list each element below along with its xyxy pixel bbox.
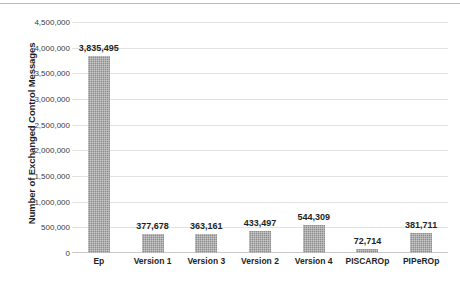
- x-axis-category-label: Ep: [93, 256, 104, 266]
- x-axis-category-label: PIPeROp: [403, 256, 439, 266]
- bar-group: 3,835,495: [72, 22, 126, 253]
- bar[interactable]: [410, 233, 432, 253]
- bar-chart: Number of Exchanged Control Messages 050…: [0, 0, 460, 286]
- bar-value-label: 72,714: [354, 236, 382, 246]
- x-axis-category-label: Version 4: [295, 256, 333, 266]
- bar-group: 433,497: [233, 22, 287, 253]
- bar[interactable]: [303, 225, 325, 253]
- bar-series: 3,835,495377,678363,161433,497544,30972,…: [72, 22, 448, 253]
- y-axis-tick-label: 3,500,000: [26, 69, 70, 78]
- x-axis-category-label: Version 3: [187, 256, 225, 266]
- bar-group: 363,161: [179, 22, 233, 253]
- bar[interactable]: [195, 234, 217, 253]
- bar-value-label: 363,161: [190, 221, 223, 231]
- x-axis-category-label: Version 2: [241, 256, 279, 266]
- bar-group: 381,711: [394, 22, 448, 253]
- x-axis-category-label: PISCAROp: [345, 256, 389, 266]
- y-axis-tick-label: 500,000: [26, 223, 70, 232]
- x-axis-category-label: Version 1: [134, 256, 172, 266]
- y-axis-tick-label: 3,000,000: [26, 95, 70, 104]
- y-axis-tick-label: 0: [26, 249, 70, 258]
- y-axis-tick-label: 2,500,000: [26, 120, 70, 129]
- x-axis-category-labels: EpVersion 1Version 3Version 2Version 4PI…: [72, 256, 448, 272]
- y-axis-tick-label: 1,500,000: [26, 172, 70, 181]
- y-axis-tick-label: 1,000,000: [26, 197, 70, 206]
- bar-value-label: 381,711: [405, 220, 437, 230]
- bar-group: 72,714: [341, 22, 395, 253]
- bar[interactable]: [356, 249, 378, 253]
- bar-group: 544,309: [287, 22, 341, 253]
- bar-value-label: 544,309: [297, 212, 330, 222]
- bar-value-label: 433,497: [244, 218, 277, 228]
- y-axis-tick-label: 4,500,000: [26, 18, 70, 27]
- bar-group: 377,678: [126, 22, 180, 253]
- bar[interactable]: [88, 56, 110, 253]
- bar-value-label: 377,678: [136, 221, 169, 231]
- y-axis-tick-labels: 0500,0001,000,0001,500,0002,000,0002,500…: [26, 0, 70, 286]
- y-axis-tick-label: 4,000,000: [26, 43, 70, 52]
- bar-value-label: 3,835,495: [79, 43, 119, 53]
- y-axis-tick-label: 2,000,000: [26, 146, 70, 155]
- plot-area: 3,835,495377,678363,161433,497544,30972,…: [72, 22, 448, 253]
- bar[interactable]: [249, 231, 271, 253]
- bar[interactable]: [142, 234, 164, 253]
